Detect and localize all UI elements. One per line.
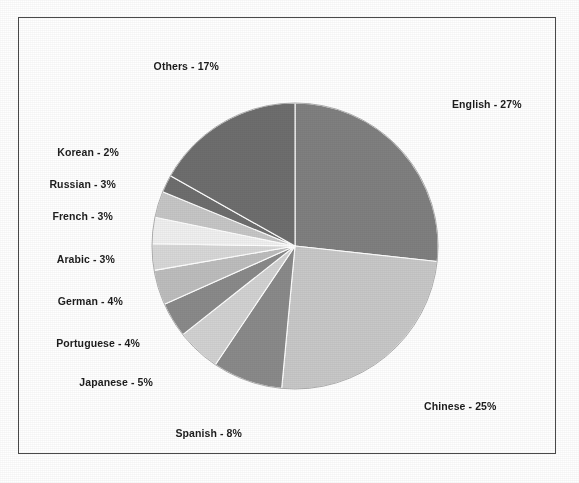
slice-label-english: English - 27% — [452, 98, 522, 110]
slice-label-korean: Korean - 2% — [0, 146, 119, 158]
slice-label-arabic: Arabic - 3% — [0, 253, 115, 265]
pie-slice-chinese — [282, 246, 437, 389]
slice-label-others: Others - 17% — [0, 60, 219, 72]
slice-label-portuguese: Portuguese - 4% — [0, 337, 140, 349]
slice-label-spanish: Spanish - 8% — [0, 427, 242, 439]
slice-label-german: German - 4% — [0, 295, 123, 307]
slice-label-russian: Russian - 3% — [0, 178, 116, 190]
pie-slice-english — [295, 103, 438, 262]
pie-chart-figure: English - 27%Chinese - 25%Spanish - 8%Ja… — [0, 0, 579, 483]
slice-label-french: French - 3% — [0, 210, 113, 222]
slice-label-japanese: Japanese - 5% — [0, 376, 153, 388]
slice-label-chinese: Chinese - 25% — [424, 400, 497, 412]
